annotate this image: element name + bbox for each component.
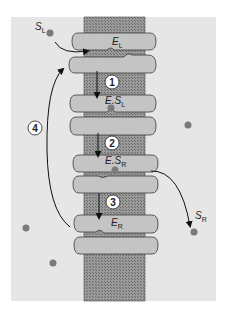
domain-lower — [70, 117, 156, 135]
step-4-badge: 4 — [28, 121, 42, 135]
domain-lower — [69, 54, 156, 73]
substrate-dot — [185, 122, 192, 129]
domain-lower — [73, 176, 158, 193]
step-3-badge: 3 — [106, 195, 120, 209]
svg-text:2: 2 — [109, 138, 115, 149]
step-1-badge: 1 — [105, 75, 119, 89]
substrate-dot — [50, 260, 57, 267]
svg-text:1: 1 — [109, 77, 115, 88]
substrate-dot — [23, 225, 30, 232]
svg-text:4: 4 — [32, 123, 38, 134]
substrate-dot-s-left — [47, 30, 54, 37]
substrate-dot-s-right — [191, 229, 198, 236]
substrate-dot-bound-right — [112, 167, 119, 174]
transport-cycle-diagram: 1 2 3 4 SL EL E.SL E.SR ER SR — [0, 0, 227, 333]
domain-lower — [74, 237, 158, 254]
svg-text:3: 3 — [110, 197, 116, 208]
step-2-badge: 2 — [105, 136, 119, 150]
